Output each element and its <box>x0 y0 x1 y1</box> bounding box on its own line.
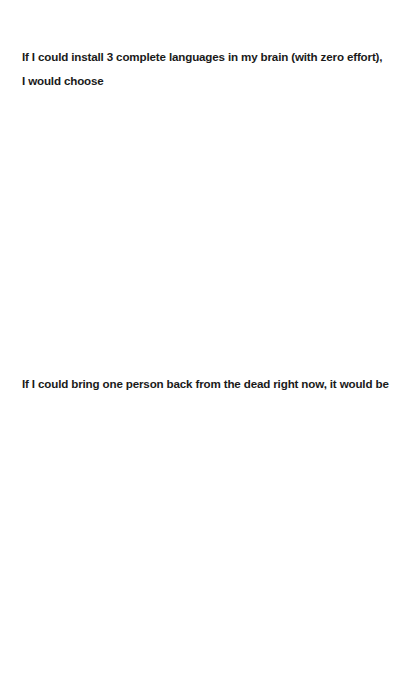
prompt-line: If I could bring one person back from th… <box>22 372 393 396</box>
answer-area-bring-back[interactable] <box>22 400 393 680</box>
prompt-line: I would choose <box>22 69 393 93</box>
answer-area-languages[interactable] <box>22 96 393 356</box>
prompt-languages: If I could install 3 complete languages … <box>22 45 393 93</box>
prompt-bring-back: If I could bring one person back from th… <box>22 372 393 396</box>
prompt-line: If I could install 3 complete languages … <box>22 45 393 69</box>
